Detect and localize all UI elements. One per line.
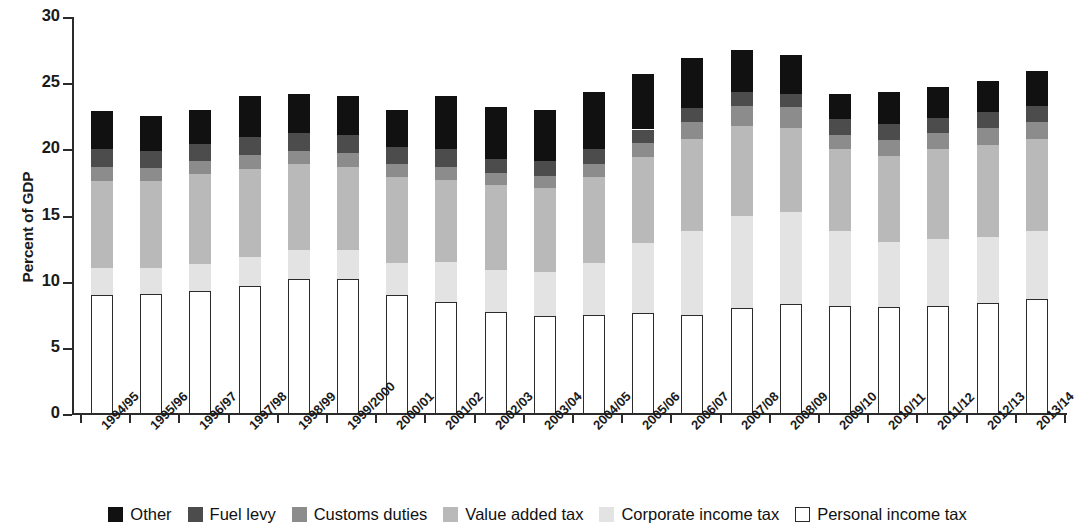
legend-label: Value added tax <box>465 505 583 524</box>
bar-2000-01[interactable] <box>386 110 408 414</box>
bar-segment-personal-income-tax <box>239 286 261 414</box>
bar-segment-other <box>534 110 556 162</box>
bar-segment-other <box>91 111 113 149</box>
bar-2008-09[interactable] <box>780 55 802 414</box>
y-tick-mark <box>63 216 72 218</box>
bar-2002-03[interactable] <box>485 107 507 414</box>
bar-segment-customs-duties <box>189 161 211 174</box>
bar-segment-customs-duties <box>780 107 802 128</box>
x-tick-mark <box>326 414 328 423</box>
legend-item-other[interactable]: Other <box>108 505 171 524</box>
bar-2012-13[interactable] <box>977 81 999 414</box>
x-tick-mark <box>375 414 377 423</box>
legend-item-value-added-tax[interactable]: Value added tax <box>443 505 583 524</box>
bar-segment-personal-income-tax <box>435 302 457 414</box>
y-tick-mark <box>63 17 72 19</box>
legend-item-fuel-levy[interactable]: Fuel levy <box>188 505 276 524</box>
legend-swatch-icon <box>599 507 614 522</box>
bar-segment-corporate-income-tax <box>435 262 457 302</box>
bar-segment-fuel-levy <box>337 135 359 154</box>
x-tick-mark <box>277 414 279 423</box>
bar-segment-corporate-income-tax <box>977 237 999 303</box>
legend-item-personal-income-tax[interactable]: Personal income tax <box>795 505 967 524</box>
bar-segment-value-added-tax <box>91 181 113 268</box>
bar-segment-other <box>878 92 900 124</box>
bar-segment-corporate-income-tax <box>632 243 654 313</box>
bar-2006-07[interactable] <box>681 58 703 414</box>
legend-swatch-icon <box>108 507 123 522</box>
bar-segment-corporate-income-tax <box>534 272 556 316</box>
bar-2005-06[interactable] <box>632 74 654 414</box>
bar-2001-02[interactable] <box>435 96 457 414</box>
bar-segment-customs-duties <box>1026 122 1048 139</box>
bar-segment-corporate-income-tax <box>140 268 162 293</box>
bar-segment-value-added-tax <box>583 177 605 263</box>
legend-item-corporate-income-tax[interactable]: Corporate income tax <box>599 505 779 524</box>
bar-2004-05[interactable] <box>583 92 605 414</box>
bar-1999-2000[interactable] <box>337 96 359 414</box>
bar-segment-fuel-levy <box>1026 106 1048 122</box>
bar-1996-97[interactable] <box>189 110 211 414</box>
bar-segment-corporate-income-tax <box>1026 231 1048 298</box>
bar-segment-fuel-levy <box>977 112 999 128</box>
bar-2013-14[interactable] <box>1026 71 1048 414</box>
y-tick-label: 15 <box>20 205 60 224</box>
x-tick-mark <box>424 414 426 423</box>
bar-segment-fuel-levy <box>829 119 851 135</box>
bar-segment-value-added-tax <box>731 126 753 216</box>
bar-segment-corporate-income-tax <box>927 239 949 305</box>
bar-segment-other <box>1026 71 1048 105</box>
x-tick-mark <box>228 414 230 423</box>
bar-1995-96[interactable] <box>140 116 162 414</box>
bar-segment-personal-income-tax <box>534 316 556 414</box>
chart-figure: Percent of GDP 051015202530 1994/951995/… <box>0 0 1075 531</box>
bar-segment-customs-duties <box>485 173 507 185</box>
bar-1998-99[interactable] <box>288 94 310 414</box>
bar-segment-personal-income-tax <box>485 312 507 414</box>
bar-segment-fuel-levy <box>583 149 605 164</box>
bar-2010-11[interactable] <box>878 92 900 414</box>
x-tick-mark <box>769 414 771 423</box>
bar-segment-personal-income-tax <box>927 306 949 415</box>
bar-segment-other <box>189 110 211 144</box>
bar-segment-customs-duties <box>632 143 654 158</box>
legend-swatch-icon <box>443 507 458 522</box>
x-tick-mark <box>966 414 968 423</box>
x-tick-mark <box>720 414 722 423</box>
bar-1994-95[interactable] <box>91 111 113 414</box>
bar-segment-corporate-income-tax <box>189 264 211 290</box>
y-tick-label: 10 <box>20 271 60 290</box>
bar-segment-customs-duties <box>829 135 851 150</box>
x-tick-mark <box>1064 414 1066 423</box>
bar-segment-other <box>632 74 654 130</box>
bar-segment-fuel-levy <box>927 118 949 134</box>
bar-segment-other <box>829 94 851 119</box>
bar-segment-other <box>288 94 310 134</box>
bar-segment-other <box>731 50 753 92</box>
bar-2003-04[interactable] <box>534 110 556 414</box>
bar-2011-12[interactable] <box>927 87 949 414</box>
bar-segment-personal-income-tax <box>288 279 310 414</box>
bar-segment-customs-duties <box>977 128 999 145</box>
bar-segment-corporate-income-tax <box>583 263 605 315</box>
y-tick-mark <box>63 149 72 151</box>
bar-segment-corporate-income-tax <box>878 242 900 307</box>
x-tick-mark <box>474 414 476 423</box>
bar-segment-value-added-tax <box>288 164 310 250</box>
x-tick-mark <box>867 414 869 423</box>
bar-segment-corporate-income-tax <box>731 216 753 309</box>
bar-segment-other <box>386 110 408 147</box>
bar-2009-10[interactable] <box>829 94 851 414</box>
bar-2007-08[interactable] <box>731 50 753 414</box>
bar-segment-value-added-tax <box>435 180 457 262</box>
bar-1997-98[interactable] <box>239 103 261 414</box>
bar-segment-other <box>927 87 949 117</box>
bar-segment-value-added-tax <box>239 169 261 256</box>
y-tick-label: 30 <box>20 6 60 25</box>
bar-segment-customs-duties <box>140 168 162 181</box>
bar-segment-other <box>780 55 802 93</box>
bar-segment-customs-duties <box>681 122 703 139</box>
legend-label: Other <box>130 505 171 524</box>
legend-item-customs-duties[interactable]: Customs duties <box>292 505 428 524</box>
legend-swatch-icon <box>795 507 810 522</box>
